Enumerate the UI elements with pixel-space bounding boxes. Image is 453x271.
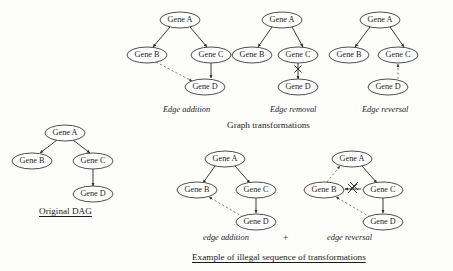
edge-a-to-b [40,140,57,153]
node-gene-c-label: Gene C [244,185,269,194]
edge-d-to-b-dashed [336,197,370,217]
edge-a-to-c [190,27,207,47]
edge-a-to-c [73,140,90,153]
panel-original-dag: Gene A Gene B Gene C Gene D [12,125,113,202]
node-gene-a-label: Gene A [168,15,193,24]
node-gene-a-label: Gene A [340,154,365,163]
node-gene-d-label: Gene D [80,189,105,198]
caption-plus-operator: + [283,233,288,243]
caption-illegal-edge-addition: edge addition [203,233,249,242]
caption-edge-removal: Edge removal [270,105,316,114]
diagram-svg: Gene A Gene B Gene C Gene D Gene A Gene … [0,0,453,271]
edge-a-to-c [235,166,250,183]
node-gene-b-label: Gene B [312,185,337,194]
edge-a-to-b [355,27,370,47]
node-gene-b-label: Gene B [135,50,160,59]
edge-a-to-c [292,27,303,47]
edge-a-to-c [362,166,377,183]
node-gene-c-label: Gene C [199,50,224,59]
node-gene-c-label: Gene C [371,185,396,194]
edge-b-to-d-added [156,62,192,81]
node-gene-d-label: Gene D [375,82,400,91]
panel-illegal-edge-reversal: Gene A Gene B Gene C Gene D [304,151,403,230]
panel-illegal-edge-addition: Gene A Gene B Gene C Gene D [177,151,276,230]
edge-a-to-b [153,27,170,47]
panel-edge-removal: Gene A Gene B Gene C Gene D [232,12,318,95]
node-gene-a-label: Gene A [270,15,295,24]
caption-illegal-sequence: Example of illegal sequence of transform… [192,252,366,262]
node-gene-c-label: Gene C [81,156,106,165]
caption-edge-addition: Edge addition [163,105,210,114]
edge-a-to-b [258,27,272,47]
node-gene-d-label: Gene D [243,217,268,226]
node-gene-b-label: Gene B [337,50,362,59]
node-gene-a-label: Gene A [368,15,393,24]
x-mark-illegal [348,182,358,193]
edge-d-to-b-added [209,197,243,217]
figure-canvas: Gene A Gene B Gene C Gene D Gene A Gene … [0,0,453,271]
node-gene-d-label: Gene D [370,217,395,226]
edge-a-to-b [203,166,215,183]
edge-b-to-a-reversed [327,166,340,182]
caption-graph-transformations: Graph transformations [227,120,310,130]
node-gene-d-label: Gene D [192,82,217,91]
node-gene-c-label: Gene C [386,50,411,59]
node-gene-b-label: Gene B [20,156,45,165]
caption-original-dag: Original DAG [39,206,92,216]
caption-illegal-edge-reversal: edge reversal [327,233,372,242]
node-gene-b-label: Gene B [240,50,265,59]
node-gene-b-label: Gene B [185,185,210,194]
panel-edge-addition: Gene A Gene B Gene C Gene D [127,12,231,95]
node-gene-a-label: Gene A [53,128,78,137]
node-gene-c-label: Gene C [286,50,311,59]
edge-a-to-c [390,27,404,47]
caption-edge-reversal: Edge reversal [362,105,408,114]
node-gene-a-label: Gene A [213,154,238,163]
panel-edge-reversal: Gene A Gene B Gene C Gene D [329,12,418,95]
node-gene-d-label: Gene D [285,82,310,91]
